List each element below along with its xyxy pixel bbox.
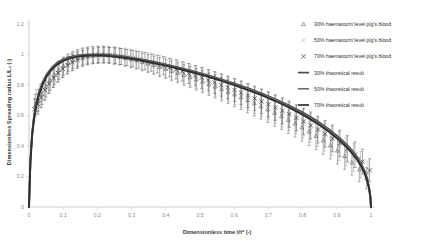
y-tick-label: 0.6 <box>17 112 24 118</box>
x-tick-label: 0.9 <box>333 212 340 218</box>
x-tick-label: 0 <box>28 212 31 218</box>
chart-figure: 00.20.40.60.811.2 00.10.20.30.40.50.60.7… <box>0 0 434 246</box>
x-tick-label: 0.1 <box>60 212 67 218</box>
y-tick-label: 0.2 <box>17 173 24 179</box>
x-tick-label: 0.3 <box>128 212 135 218</box>
y-tick-label: 0 <box>21 204 24 210</box>
spreading-radius-scatter-chart: 00.20.40.60.811.2 00.10.20.30.40.50.60.7… <box>0 0 434 246</box>
x-tick-label: 0.2 <box>94 212 101 218</box>
legend-label: 30% theoretical result <box>314 70 364 76</box>
legend-label: 30% haematocrit level pig's blood <box>314 21 391 27</box>
x-tick-label: 0.4 <box>162 212 169 218</box>
x-tick-label: 0.6 <box>231 212 238 218</box>
x-tick-label: 0.5 <box>196 212 203 218</box>
legend-label: 70% haematocrit level pig's blood <box>314 53 391 59</box>
y-axis-title: Dimensionless Spreading radius L/L₀ (-) <box>6 59 12 165</box>
legend-label: 70% theoretical result <box>314 102 364 108</box>
y-tick-label: 1 <box>21 51 24 57</box>
x-tick-label: 1 <box>370 212 373 218</box>
x-tick-label: 0.8 <box>299 212 306 218</box>
y-tick-label: 1.2 <box>17 21 24 27</box>
legend-label: 50% haematocrit level pig's blood <box>314 37 391 43</box>
y-tick-label: 0.8 <box>17 82 24 88</box>
y-tick-label: 0.4 <box>17 143 24 149</box>
x-tick-label: 0.7 <box>265 212 272 218</box>
x-axis-title: Dimensionless time t/t* (-) <box>183 229 252 235</box>
legend-label: 50% theoretical result <box>314 86 364 92</box>
